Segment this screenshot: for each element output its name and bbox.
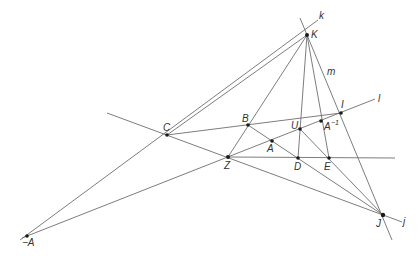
point-A-inverse: [319, 119, 323, 123]
label-A: A: [266, 143, 274, 154]
point-Z: [226, 155, 230, 159]
line-ZDE: [228, 157, 395, 158]
line-m: [300, 18, 392, 240]
projective-geometry-diagram: K C B A U A −1 I Z D E J −A k m l j: [0, 0, 420, 256]
label-line-l: l: [378, 93, 381, 104]
line-KZ: [228, 35, 307, 157]
label-C: C: [163, 122, 171, 133]
label-I: I: [341, 99, 344, 110]
label-A-inverse: A: [323, 121, 331, 132]
label-B: B: [242, 113, 249, 124]
point-J: [381, 213, 385, 217]
label-K: K: [311, 29, 319, 40]
line-KD: [298, 35, 307, 158]
lines: [20, 18, 402, 240]
point-D: [296, 156, 300, 160]
point-U: [298, 127, 302, 131]
label-J: J: [375, 218, 382, 229]
point-labels: K C B A U A −1 I Z D E J −A: [22, 29, 382, 248]
points: [25, 33, 385, 238]
point-I: [339, 111, 343, 115]
line-UJ: [300, 129, 383, 215]
label-line-m: m: [327, 66, 335, 77]
point-C: [165, 133, 169, 137]
point-E: [327, 156, 331, 160]
label-A-inverse-sup: −1: [331, 119, 339, 126]
point-K: [305, 33, 309, 37]
label-Z: Z: [223, 160, 231, 171]
label-D: D: [294, 161, 301, 172]
label-neg-A: −A: [22, 237, 35, 248]
label-E: E: [324, 161, 331, 172]
label-U: U: [291, 120, 299, 131]
label-line-k: k: [319, 10, 325, 21]
